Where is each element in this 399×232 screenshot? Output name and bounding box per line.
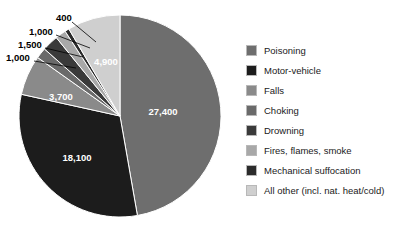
legend-item[interactable]: Mechanical suffocation [246,160,399,180]
legend-item-label: Poisoning [264,45,306,56]
legend-item-label: Mechanical suffocation [264,165,360,176]
legend-item-label: Choking [264,105,299,116]
legend-item[interactable]: Choking [246,100,399,120]
pie-chart-figure: 27,40018,1003,7004,900 4001,0001,5001,00… [0,0,399,232]
legend-item-label: Drowning [264,125,304,136]
legend-color-swatch [246,185,257,196]
legend-item[interactable]: Poisoning [246,40,399,60]
slice-value-label: 3,700 [49,91,73,102]
chart-legend: PoisoningMotor-vehicleFallsChokingDrowni… [246,40,399,200]
pie-slices-group [19,15,221,217]
legend-item[interactable]: Fires, flames, smoke [246,140,399,160]
callout-value-label: 1,000 [29,26,53,37]
slice-value-label: 18,100 [62,152,91,163]
slice-value-label: 27,400 [148,106,177,117]
legend-item-label: All other (incl. nat. heat/cold) [264,185,384,196]
callout-value-label: 400 [56,12,72,23]
callout-value-label: 1,500 [18,39,42,50]
legend-item-label: Fires, flames, smoke [264,145,352,156]
legend-color-swatch [246,45,257,56]
legend-color-swatch [246,105,257,116]
legend-item[interactable]: Motor-vehicle [246,60,399,80]
legend-item-label: Falls [264,85,284,96]
legend-color-swatch [246,165,257,176]
legend-item-label: Motor-vehicle [264,65,321,76]
pie-plot-area: 27,40018,1003,7004,900 4001,0001,5001,00… [0,0,240,232]
legend-color-swatch [246,65,257,76]
pie-svg: 27,40018,1003,7004,900 4001,0001,5001,00… [0,0,240,232]
slice-value-label: 4,900 [94,56,118,67]
legend-color-swatch [246,85,257,96]
legend-item[interactable]: Falls [246,80,399,100]
legend-color-swatch [246,125,257,136]
callout-value-label: 1,000 [6,52,30,63]
legend-item[interactable]: All other (incl. nat. heat/cold) [246,180,399,200]
legend-item[interactable]: Drowning [246,120,399,140]
legend-color-swatch [246,145,257,156]
